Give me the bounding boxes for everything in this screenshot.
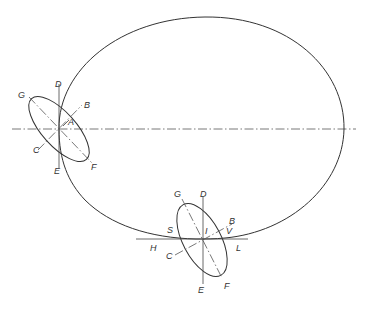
label-bottom-d: D — [200, 189, 207, 199]
label-bottom-g: G — [174, 189, 181, 199]
label-left-b: B — [84, 100, 90, 110]
label-bottom-b: B — [229, 216, 235, 226]
label-bottom-i: I — [205, 226, 208, 236]
bottom-minor-axis — [175, 224, 232, 255]
bottom-ellipse — [166, 196, 237, 284]
label-bottom-l: L — [236, 243, 241, 253]
main-curve — [59, 17, 344, 239]
label-left-c: C — [33, 145, 40, 155]
label-left-e: E — [54, 166, 61, 176]
bottom-ellipse-group: G D B S I V H L C E F — [136, 189, 248, 295]
label-left-f: F — [91, 162, 97, 172]
label-bottom-e: E — [198, 285, 205, 295]
diagram-svg: D B A G C E F G D B S I V H L — [0, 0, 366, 310]
label-left-a: A — [67, 117, 74, 127]
diagram-canvas: D B A G C E F G D B S I V H L — [0, 0, 366, 310]
label-bottom-v: V — [226, 226, 233, 236]
label-left-g: G — [18, 90, 25, 100]
label-bottom-f: F — [224, 281, 230, 291]
label-bottom-s: S — [167, 225, 173, 235]
label-left-d: D — [55, 79, 62, 89]
label-bottom-h: H — [150, 243, 157, 253]
label-bottom-c: C — [166, 251, 173, 261]
